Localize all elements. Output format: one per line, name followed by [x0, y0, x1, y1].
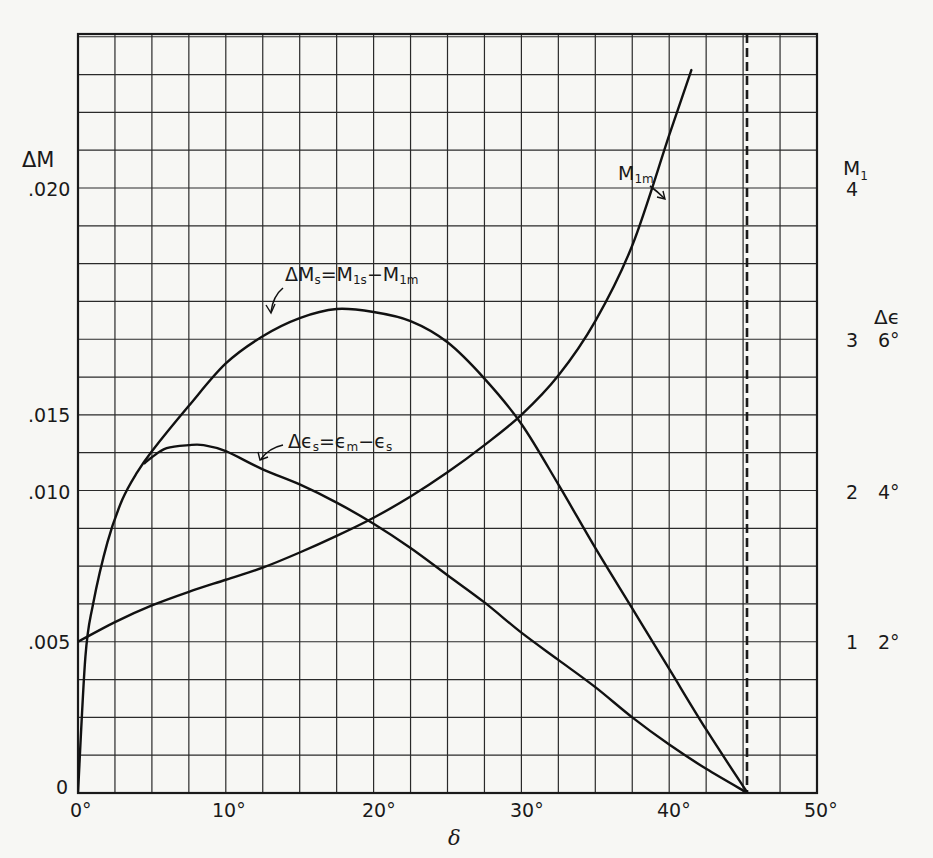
annotation-delta-ms: ΔMs=M1s−M1m	[285, 263, 419, 287]
x-tick: 0°	[70, 801, 92, 820]
y-left-tick: .010	[28, 483, 70, 502]
y-right-deps-tick: 4°	[878, 483, 900, 502]
x-tick: 10°	[212, 801, 246, 820]
y-left-tick: 0	[56, 778, 68, 797]
x-axis-title: δ	[448, 828, 461, 849]
arrow-dMs-head	[266, 304, 275, 313]
x-tick: 40°	[657, 801, 691, 820]
annotation-delta-eps: Δϵs=ϵm−ϵs	[288, 430, 392, 454]
y-right-deps-tick: 2°	[878, 633, 900, 652]
y-right-m1-tick: 1	[846, 633, 858, 652]
y-left-tick: .005	[28, 633, 70, 652]
y-right-m1-tick: 2	[846, 483, 858, 502]
y-right-deps-tick: 6°	[878, 331, 900, 350]
arrow-deps	[261, 445, 283, 459]
x-tick: 50°	[804, 801, 838, 820]
grid-lines	[78, 34, 817, 793]
y-left-tick: .015	[28, 406, 70, 425]
chart-plot-area	[0, 0, 933, 858]
x-tick: 20°	[362, 801, 396, 820]
curve-delta-eps	[145, 445, 748, 793]
y-right-m1-tick: 3	[846, 331, 858, 350]
annotation-m1m: M1m	[618, 162, 654, 186]
y-right-m1-tick: 4	[846, 180, 858, 199]
y-left-axis-title: ΔM	[22, 150, 54, 171]
y-left-tick: .020	[28, 180, 70, 199]
y-right-deps-title: Δϵ	[874, 307, 900, 327]
x-tick: 30°	[510, 801, 544, 820]
